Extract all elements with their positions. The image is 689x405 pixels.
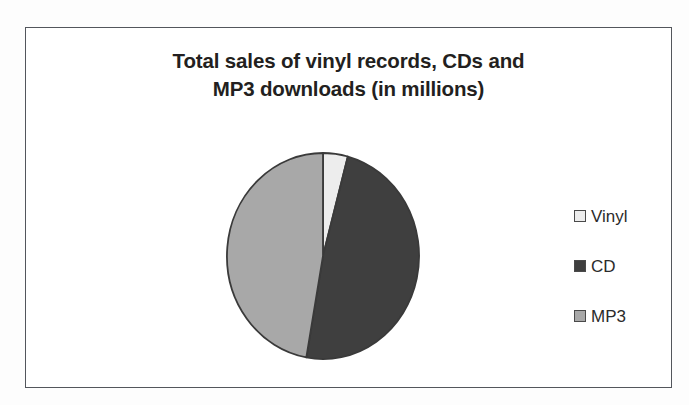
pie-chart [201,146,451,366]
chart-title-line-1: Total sales of vinyl records, CDs and [56,47,641,75]
legend-label-cd: CD [591,258,616,275]
legend-swatch-mp3 [574,310,586,322]
chart-frame: Total sales of vinyl records, CDs and MP… [25,27,672,388]
legend-item-cd[interactable]: CD [574,241,684,291]
pie-chart-svg [201,146,451,366]
page-title: Total sales of vinyl records, CDs and MP… [56,47,641,103]
legend-item-mp3[interactable]: MP3 [574,291,684,341]
legend-label-vinyl: Vinyl [591,208,628,225]
pie-slice-mp3[interactable] [227,153,323,357]
scanned-page-background: Total sales of vinyl records, CDs and MP… [0,0,689,405]
legend-swatch-vinyl [574,210,586,222]
chart-legend: Vinyl CD MP3 [574,191,684,341]
legend-label-mp3: MP3 [591,308,626,325]
legend-swatch-cd [574,260,586,272]
chart-title-line-2: MP3 downloads (in millions) [56,75,641,103]
legend-item-vinyl[interactable]: Vinyl [574,191,684,241]
pie-slice-group [227,153,419,359]
